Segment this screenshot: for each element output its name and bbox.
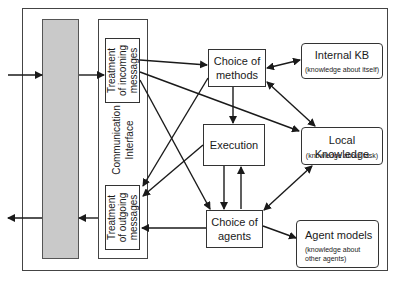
- arrow-agents-to-agent-models: [263, 226, 296, 238]
- arrow-agents-local-knowledge: [264, 166, 312, 210]
- connector-arrows: [0, 0, 393, 289]
- arrow-methods-to-outgoing: [143, 78, 208, 186]
- arrow-incoming-to-local-knowledge: [140, 72, 299, 131]
- arrow-incoming-to-methods: [140, 60, 207, 65]
- arrow-methods-local-knowledge: [267, 82, 315, 126]
- arrow-methods-internal-kb: [267, 60, 300, 68]
